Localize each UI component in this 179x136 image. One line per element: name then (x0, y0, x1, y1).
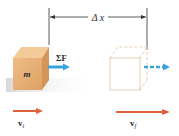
svg-text:vi: vi (18, 118, 25, 129)
final-position-block (110, 47, 147, 90)
final-velocity-arrow: vf (116, 109, 170, 129)
initial-velocity-subscript: i (23, 122, 25, 129)
mass-label: m (23, 69, 30, 79)
displacement-label: Δ x (91, 12, 105, 23)
final-force-arrow-dashed (144, 64, 170, 71)
svg-text:vf: vf (130, 118, 138, 129)
mass-block: m (13, 47, 49, 90)
displacement-dimension: Δ x (49, 8, 147, 50)
net-force-arrow: ΣF (48, 53, 70, 71)
work-energy-diagram: Δ x m ΣF vi vf (0, 0, 179, 136)
final-velocity-subscript: f (135, 122, 138, 129)
net-force-label: ΣF (56, 53, 67, 63)
initial-velocity-arrow: vi (13, 108, 43, 129)
